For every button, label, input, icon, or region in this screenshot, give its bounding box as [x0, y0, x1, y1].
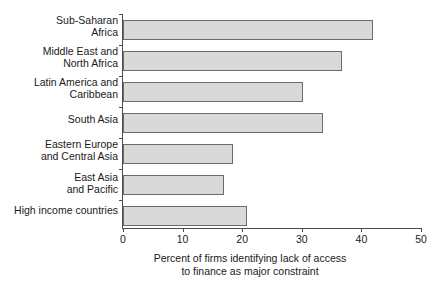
x-axis-tick-label: 20	[227, 233, 257, 245]
bar-high-income-countries	[123, 206, 247, 226]
x-axis-tick	[361, 228, 362, 232]
x-axis-tick-label: 10	[168, 233, 198, 245]
category-label-eastern-europe-central-asia: Eastern Europe and Central Asia	[2, 139, 118, 162]
x-axis-tick	[183, 228, 184, 232]
bar-middle-east-north-africa	[123, 51, 342, 71]
x-axis-line	[122, 228, 422, 229]
x-axis-tick-label: 30	[287, 233, 317, 245]
x-axis-tick-label: 40	[346, 233, 376, 245]
x-axis-title: Percent of firms identifying lack of acc…	[80, 252, 420, 278]
x-axis-tick	[302, 228, 303, 232]
x-axis-tick-label: 50	[406, 233, 436, 245]
bar-south-asia	[123, 113, 323, 133]
category-label-south-asia: South Asia	[2, 114, 118, 126]
bar-east-asia-pacific	[123, 175, 224, 195]
category-label-high-income-countries: High income countries	[2, 205, 118, 217]
category-label-sub-saharan-africa: Sub-Saharan Africa	[2, 15, 118, 38]
x-axis-tick	[242, 228, 243, 232]
x-axis-tick-label: 0	[108, 233, 138, 245]
plot-area	[123, 14, 421, 228]
bar-latin-america-caribbean	[123, 82, 303, 102]
category-label-east-asia-pacific: East Asia and Pacific	[2, 172, 118, 195]
bar-chart: Sub-Saharan Africa Middle East and North…	[0, 0, 446, 291]
category-axis-labels: Sub-Saharan Africa Middle East and North…	[0, 0, 118, 291]
x-axis-tick	[123, 228, 124, 232]
bar-sub-saharan-africa	[123, 20, 373, 40]
bar-eastern-europe-central-asia	[123, 144, 233, 164]
category-label-middle-east-north-africa: Middle East and North Africa	[2, 46, 118, 69]
category-label-latin-america-caribbean: Latin America and Caribbean	[2, 77, 118, 100]
x-axis-tick	[421, 228, 422, 232]
